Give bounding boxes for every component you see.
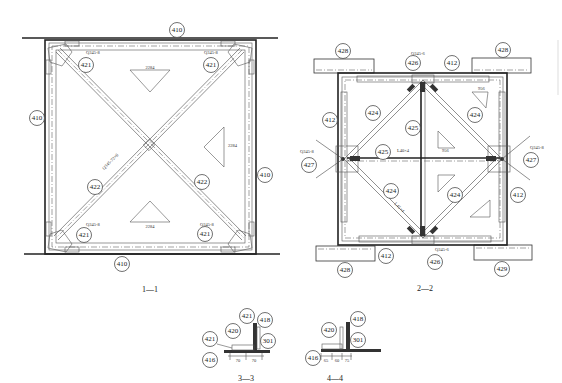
diamond-brace bbox=[345, 80, 501, 238]
svg-text:412: 412 bbox=[447, 59, 458, 67]
svg-text:426: 426 bbox=[430, 258, 441, 266]
svg-text:425: 425 bbox=[408, 124, 419, 132]
svg-text:410: 410 bbox=[172, 26, 183, 34]
label-425-vertical: 425 bbox=[406, 121, 421, 136]
svg-text:426: 426 bbox=[408, 59, 419, 67]
svg-text:2284: 2284 bbox=[146, 224, 156, 229]
engineering-drawing: 2284 2284 2284 Q345-8 Q345-8 Q345-8 Q345… bbox=[0, 0, 562, 383]
svg-text:410: 410 bbox=[32, 114, 43, 122]
section-title-4-4: 4—4 bbox=[327, 374, 343, 383]
svg-text:Q345-8: Q345-8 bbox=[86, 50, 100, 55]
label-427-left: 427 bbox=[302, 158, 317, 173]
section-title-1-1: 1—1 bbox=[142, 285, 158, 294]
svg-text:421: 421 bbox=[206, 61, 217, 69]
label-418-44: 418 bbox=[351, 312, 366, 327]
svg-text:428: 428 bbox=[340, 266, 351, 274]
svg-text:Q345-8: Q345-8 bbox=[86, 222, 100, 227]
label-426-top: 426 bbox=[406, 56, 421, 71]
label-301-44: 301 bbox=[351, 333, 366, 348]
svg-text:75: 75 bbox=[345, 358, 350, 363]
svg-text:2284: 2284 bbox=[146, 65, 156, 70]
svg-text:2284: 2284 bbox=[228, 143, 238, 148]
svg-text:421: 421 bbox=[79, 231, 90, 239]
svg-text:Q345-72×6: Q345-72×6 bbox=[101, 152, 120, 171]
svg-text:428: 428 bbox=[498, 46, 509, 54]
svg-text:412: 412 bbox=[325, 116, 336, 124]
label-421-tr: 421 bbox=[204, 58, 219, 73]
label-424-bl: 424 bbox=[384, 184, 399, 199]
label-421-br: 421 bbox=[198, 227, 213, 242]
label-421-bl: 421 bbox=[77, 228, 92, 243]
label-429-br: 429 bbox=[495, 262, 510, 277]
svg-text:Q345-8: Q345-8 bbox=[530, 145, 544, 150]
label-428-bl: 428 bbox=[338, 263, 353, 278]
label-420-44: 420 bbox=[322, 323, 337, 338]
block-bl bbox=[316, 246, 375, 261]
node-top bbox=[407, 75, 438, 92]
label-412-bottom: 412 bbox=[379, 249, 394, 264]
svg-text:421: 421 bbox=[81, 61, 92, 69]
svg-text:410: 410 bbox=[117, 260, 128, 268]
section-1-1: 2284 2284 2284 Q345-8 Q345-8 Q345-8 Q345… bbox=[22, 23, 280, 295]
label-427-right: 427 bbox=[524, 153, 539, 168]
svg-text:301: 301 bbox=[353, 336, 364, 344]
block-tl bbox=[314, 59, 374, 73]
svg-text:424: 424 bbox=[450, 191, 461, 199]
label-424-tl: 424 bbox=[366, 106, 381, 121]
section-title-3-3: 3—3 bbox=[238, 374, 254, 383]
label-425-horizontal: 425 bbox=[376, 145, 391, 160]
block-tr bbox=[472, 58, 531, 73]
node-right bbox=[486, 136, 530, 180]
svg-text:422: 422 bbox=[90, 183, 101, 191]
svg-text:421: 421 bbox=[200, 230, 211, 238]
svg-text:70: 70 bbox=[236, 358, 241, 363]
label-424-br: 424 bbox=[448, 188, 463, 203]
label-416: 416 bbox=[203, 353, 218, 368]
svg-text:422: 422 bbox=[197, 178, 208, 186]
svg-text:Q345-8: Q345-8 bbox=[300, 149, 314, 154]
svg-text:418: 418 bbox=[260, 316, 271, 324]
label-410-right: 410 bbox=[258, 168, 273, 183]
label-412-left: 412 bbox=[323, 113, 338, 128]
svg-text:416: 416 bbox=[205, 356, 216, 364]
svg-text:956: 956 bbox=[478, 86, 486, 91]
svg-text:421: 421 bbox=[242, 312, 253, 320]
outer-frame-2 bbox=[338, 73, 507, 245]
svg-text:425: 425 bbox=[378, 148, 389, 156]
section-4-4: 65 60 75 418 420 301 416 4—4 bbox=[306, 312, 382, 383]
label-421-tl: 421 bbox=[79, 58, 94, 73]
label-410-left: 410 bbox=[30, 111, 45, 126]
svg-text:412: 412 bbox=[513, 191, 524, 199]
svg-text:424: 424 bbox=[368, 109, 379, 117]
label-410-bottom: 410 bbox=[115, 257, 130, 272]
section-title-2-2: 2—2 bbox=[417, 284, 433, 293]
label-422-left: 422 bbox=[88, 180, 103, 195]
svg-text:420: 420 bbox=[228, 327, 239, 335]
svg-text:418: 418 bbox=[353, 315, 364, 323]
label-422-right: 422 bbox=[195, 175, 210, 190]
svg-text:Q345-8: Q345-8 bbox=[200, 222, 214, 227]
svg-text:424: 424 bbox=[470, 111, 481, 119]
label-424-tr: 424 bbox=[468, 108, 483, 123]
svg-text:420: 420 bbox=[324, 326, 335, 334]
x-brace bbox=[54, 48, 246, 240]
label-418: 418 bbox=[258, 313, 273, 328]
svg-text:70: 70 bbox=[252, 358, 257, 363]
svg-text:65: 65 bbox=[324, 358, 329, 363]
svg-text:412: 412 bbox=[381, 252, 392, 260]
section-2-2: 956 956 Q345-6 Q345-6 Q345-8 Q345-8 L40×… bbox=[300, 43, 544, 294]
label-428-tr: 428 bbox=[496, 43, 511, 58]
svg-text:301: 301 bbox=[263, 337, 274, 345]
label-416-44: 416 bbox=[306, 351, 321, 366]
label-412-top: 412 bbox=[445, 56, 460, 71]
label-421-left: 421 bbox=[203, 332, 218, 347]
svg-text:429: 429 bbox=[497, 265, 508, 273]
label-420: 420 bbox=[226, 324, 241, 339]
label-428-tl: 428 bbox=[336, 44, 351, 59]
svg-text:421: 421 bbox=[205, 335, 216, 343]
label-412-right: 412 bbox=[511, 188, 526, 203]
svg-text:410: 410 bbox=[260, 171, 271, 179]
svg-text:L40×4: L40×4 bbox=[397, 148, 410, 153]
svg-text:416: 416 bbox=[308, 354, 319, 362]
label-301: 301 bbox=[261, 334, 276, 349]
